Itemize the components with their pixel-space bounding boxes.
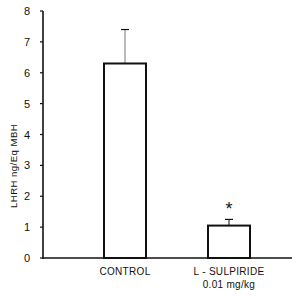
y-tick-label: 5: [24, 98, 30, 110]
y-tick-label: 6: [24, 67, 30, 79]
y-tick-label: 3: [24, 159, 30, 171]
y-axis-label: LHRH ng/Eq MBH: [8, 124, 19, 208]
y-tick-label: 8: [24, 5, 30, 17]
y-tick-label: 1: [24, 221, 30, 233]
bar-rect: [208, 226, 250, 258]
y-axis: 012345678: [24, 5, 43, 264]
bar-rect: [104, 63, 146, 258]
y-tick-label: 0: [24, 252, 30, 264]
bars: *: [104, 30, 250, 258]
category-label: 0.01 mg/kg: [203, 279, 255, 290]
bar-chart: 012345678 * CONTROLL - SULPIRIDE0.01 mg/…: [0, 0, 302, 299]
bar: [208, 219, 250, 258]
y-tick-label: 7: [24, 36, 30, 48]
bar: [104, 30, 146, 258]
category-label: CONTROL: [100, 266, 151, 277]
y-tick-label: 2: [24, 190, 30, 202]
significance-asterisk: *: [225, 199, 232, 219]
y-tick-label: 4: [24, 129, 30, 141]
category-labels: CONTROLL - SULPIRIDE0.01 mg/kg: [100, 266, 265, 290]
category-label: L - SULPIRIDE: [194, 266, 265, 277]
